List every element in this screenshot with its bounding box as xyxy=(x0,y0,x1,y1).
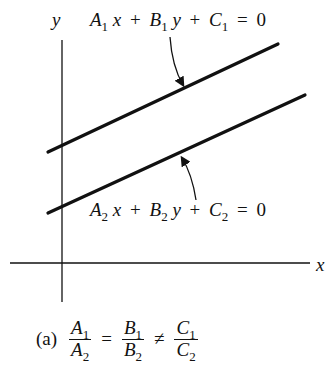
line-1 xyxy=(48,44,278,152)
arrow-to-line-1 xyxy=(170,37,183,85)
caption-tag: (a) xyxy=(36,328,57,350)
equation-line-2: A2 x + B2 y + C2 = 0 xyxy=(90,200,266,219)
line-2 xyxy=(48,95,305,213)
not-equal-sign: ≠ xyxy=(148,328,170,350)
fraction-a: A1 A2 xyxy=(69,318,91,361)
fraction-c: C1 C2 xyxy=(174,318,197,361)
x-axis-label: x xyxy=(316,255,324,274)
fraction-b: B1 B2 xyxy=(122,318,144,361)
y-axis-label: y xyxy=(52,10,60,29)
caption: (a) A1 A2 = B1 B2 ≠ C1 C2 xyxy=(36,318,202,361)
equation-line-1: A1 x + B1 y + C1 = 0 xyxy=(90,10,266,29)
arrow-to-line-2 xyxy=(182,158,196,200)
equals-sign: = xyxy=(95,328,118,350)
